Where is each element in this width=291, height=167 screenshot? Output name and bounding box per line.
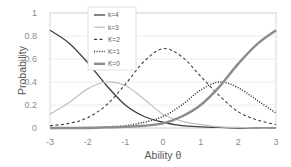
x-tick-label: 3 — [273, 137, 278, 147]
y-tick-label: 0.8 — [24, 31, 37, 41]
plot-area — [50, 13, 276, 128]
x-tick-label: -1 — [121, 137, 129, 147]
x-tick-label: -3 — [46, 137, 54, 147]
x-axis-ticks: -3-2-10123 — [46, 137, 279, 147]
y-tick-label: 0.2 — [24, 100, 37, 110]
y-tick-label: 1 — [32, 8, 37, 18]
gridlines — [50, 13, 276, 128]
x-tick-label: 0 — [160, 137, 165, 147]
legend-entry-label: K=1 — [108, 48, 120, 55]
series-line-k-4 — [50, 30, 276, 128]
x-tick-label: 1 — [198, 137, 203, 147]
x-tick-label: -2 — [84, 137, 92, 147]
irt-category-curves-chart: 00.20.40.60.81 -3-2-10123 Ability θ Prob… — [0, 0, 291, 167]
legend-entry-label: K=0 — [108, 60, 120, 67]
x-axis-title: Ability θ — [145, 149, 182, 161]
legend-entry-label: k=4 — [108, 11, 119, 18]
y-axis-title: Probability — [16, 45, 28, 95]
x-tick-label: 2 — [236, 137, 241, 147]
series-line-k-0 — [50, 30, 276, 128]
legend: k=4k=3K=2K=1K=0 — [88, 7, 136, 70]
legend-entry-label: K=2 — [108, 36, 120, 43]
legend-entry-label: k=3 — [108, 24, 119, 31]
series-lines — [50, 30, 276, 128]
y-tick-label: 0 — [32, 123, 37, 133]
